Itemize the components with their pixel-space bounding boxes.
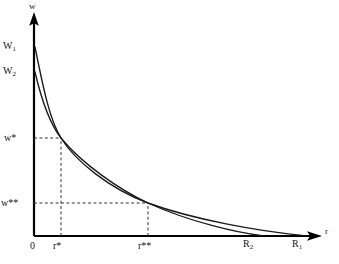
x-tick-label-R2-text: R: [243, 238, 250, 249]
y-tick-label-W2-subscript: 2: [12, 70, 16, 78]
y-tick-label-W2: W2: [3, 66, 16, 76]
curve-W1-R1: [35, 47, 302, 235]
x-tick-label-R2-subscript: 2: [250, 243, 254, 251]
x-tick-label-r-star-star: r**: [138, 241, 151, 251]
y-tick-label-w-star-star: w**: [1, 198, 18, 208]
x-tick-label-R1-text: R: [292, 238, 299, 249]
x-tick-label-R2: R2: [243, 239, 253, 249]
y-tick-label-W1-subscript: 1: [12, 45, 16, 53]
y-tick-label-w-star: w*: [4, 133, 16, 143]
x-tick-label-R1: R1: [292, 239, 302, 249]
y-axis: [29, 12, 39, 236]
x-axis-title: r: [325, 227, 328, 236]
figure-container: w r W1 W2 w* w** 0 r* r** R2 R1: [0, 0, 339, 264]
y-tick-label-W1: W1: [3, 41, 16, 51]
y-axis-title: w: [29, 2, 36, 11]
origin-label: 0: [30, 241, 35, 251]
chart-svg: [0, 0, 339, 264]
x-tick-label-R1-subscript: 1: [299, 243, 303, 251]
curve-W2-R2: [35, 72, 262, 236]
x-tick-label-r-star: r*: [53, 241, 61, 251]
